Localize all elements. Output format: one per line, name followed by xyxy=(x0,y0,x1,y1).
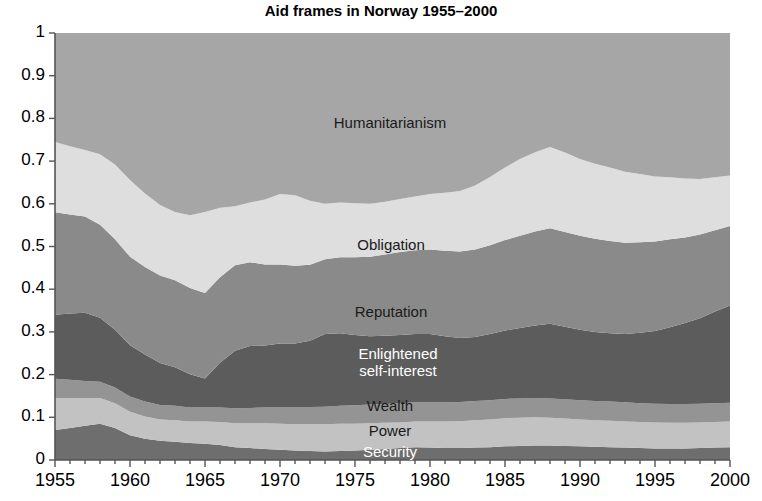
x-tick-label: 1975 xyxy=(320,470,390,491)
x-tick-label: 2000 xyxy=(695,470,762,491)
y-tick-label: 0.2 xyxy=(1,364,45,384)
y-tick-label: 0.6 xyxy=(1,193,45,213)
y-tick-label: 1 xyxy=(1,22,45,42)
x-tick-label: 1965 xyxy=(170,470,240,491)
series-label-reputation: Reputation xyxy=(291,303,491,320)
y-tick-label: 0.8 xyxy=(1,107,45,127)
y-tick-label: 0.9 xyxy=(1,65,45,85)
series-label-power: Power xyxy=(290,422,490,439)
series-label-humanitarianism: Humanitarianism xyxy=(290,114,490,131)
x-tick-label: 1970 xyxy=(245,470,315,491)
series-label-obligation: Obligation xyxy=(291,236,491,253)
x-tick-label: 1980 xyxy=(395,470,465,491)
series-label-enlightened: Enlightened xyxy=(298,345,498,362)
x-tick-label: 1990 xyxy=(545,470,615,491)
chart-page: Aid frames in Norway 1955–2000 00.10.20.… xyxy=(0,0,762,501)
series-label-security: Security xyxy=(290,443,490,460)
y-tick-label: 0 xyxy=(1,449,45,469)
y-tick-label: 0.4 xyxy=(1,278,45,298)
y-tick-label: 0.3 xyxy=(1,321,45,341)
series-label-self-interest: self-interest xyxy=(298,362,498,379)
x-tick-label: 1985 xyxy=(470,470,540,491)
y-tick-label: 0.1 xyxy=(1,406,45,426)
x-tick-label: 1995 xyxy=(620,470,690,491)
y-tick-label: 0.7 xyxy=(1,150,45,170)
series-label-wealth: Wealth xyxy=(290,397,490,414)
x-tick-label: 1960 xyxy=(95,470,165,491)
x-tick-label: 1955 xyxy=(20,470,90,491)
y-tick-label: 0.5 xyxy=(1,236,45,256)
